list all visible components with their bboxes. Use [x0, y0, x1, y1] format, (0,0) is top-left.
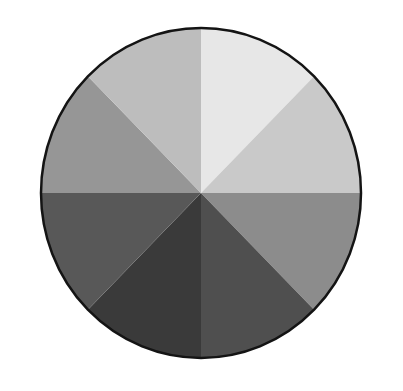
color-wheel-diagram — [0, 0, 403, 391]
wheel-segment-group — [41, 28, 361, 358]
color-wheel-figure: All colors have positive and negative qu… — [0, 0, 403, 391]
figure-caption: All colors have positive and negative qu… — [3, 348, 243, 391]
